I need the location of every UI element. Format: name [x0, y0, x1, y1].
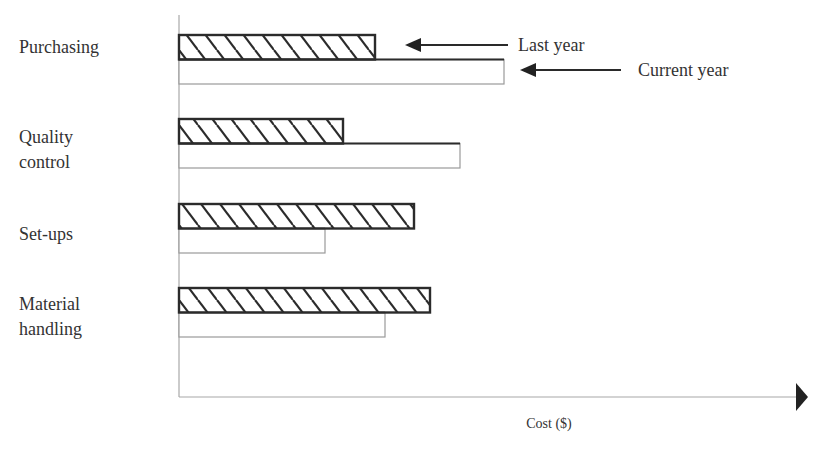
- legend-arrow-last-year: [405, 38, 508, 52]
- bar-last-year-purchasing: [179, 35, 375, 60]
- arrow-left-icon: [520, 63, 536, 77]
- category-label-quality-control: Quality control: [19, 125, 73, 175]
- bar-current-year-purchasing: [179, 60, 504, 85]
- category-label-set-ups: Set-ups: [19, 222, 73, 247]
- x-axis-label: Cost ($): [526, 415, 572, 433]
- arrow-left-icon: [405, 38, 421, 52]
- legend-arrow-current-year: [520, 63, 621, 77]
- category-label-purchasing: Purchasing: [19, 35, 99, 60]
- bar-current-year-set-ups: [179, 229, 325, 254]
- bar-current-year-material-handling: [179, 313, 385, 338]
- bar-last-year-material-handling: [179, 288, 430, 313]
- bars-group: [179, 35, 504, 337]
- bar-last-year-set-ups: [179, 204, 414, 229]
- legend-label-last-year: Last year: [518, 34, 584, 56]
- cost-comparison-chart: Purchasing Quality control Set-ups Mater…: [0, 0, 822, 450]
- x-axis-arrowhead-icon: [796, 383, 808, 411]
- legend-label-current-year: Current year: [638, 59, 728, 81]
- bar-last-year-quality-control: [179, 119, 343, 144]
- category-label-material-handling: Material handling: [19, 292, 82, 342]
- bar-current-year-quality-control: [179, 144, 460, 169]
